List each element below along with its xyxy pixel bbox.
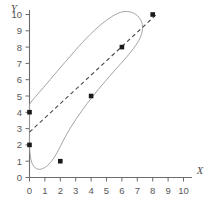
y-tick-label: 1 (17, 156, 22, 167)
confidence-region-curve (30, 11, 143, 169)
scatter-plot-figure: 0 1 2 3 4 5 6 7 8 9 10 0 1 2 3 4 5 6 7 8… (0, 0, 209, 201)
x-tick-label: 2 (58, 185, 63, 196)
y-tick-label: 2 (17, 139, 22, 150)
x-tick-labels: 0 1 2 3 4 5 6 7 8 9 10 (27, 185, 189, 196)
x-tick-label: 7 (135, 185, 140, 196)
data-point-group (27, 12, 155, 163)
plot-canvas: 0 1 2 3 4 5 6 7 8 9 10 0 1 2 3 4 5 6 7 8… (0, 0, 209, 201)
data-point (150, 12, 155, 17)
x-tick-label: 3 (73, 185, 78, 196)
y-tick-label: 9 (17, 25, 22, 36)
x-tick-label: 4 (88, 185, 93, 196)
y-tick-label: 7 (17, 58, 22, 69)
y-tick-label: 4 (17, 107, 22, 118)
data-point (89, 94, 94, 99)
x-tick-label: 0 (27, 185, 32, 196)
y-tick-label: 8 (17, 42, 22, 53)
data-point (27, 110, 32, 115)
x-tick-marks (30, 178, 184, 182)
data-point (58, 159, 63, 164)
data-point (120, 45, 125, 50)
x-tick-label: 10 (178, 185, 189, 196)
y-tick-label: 3 (17, 123, 22, 134)
x-tick-label: 1 (42, 185, 47, 196)
y-tick-marks (26, 15, 30, 178)
data-point (27, 143, 32, 148)
y-tick-labels: 0 1 2 3 4 5 6 7 8 9 10 (11, 9, 22, 183)
y-tick-label: 6 (17, 74, 22, 85)
x-tick-label: 6 (119, 185, 124, 196)
x-tick-label: 8 (150, 185, 155, 196)
x-tick-label: 5 (104, 185, 109, 196)
y-tick-label: 5 (17, 91, 22, 102)
y-tick-label: 0 (17, 172, 22, 183)
x-axis-title: X (196, 165, 204, 176)
x-tick-label: 9 (165, 185, 170, 196)
